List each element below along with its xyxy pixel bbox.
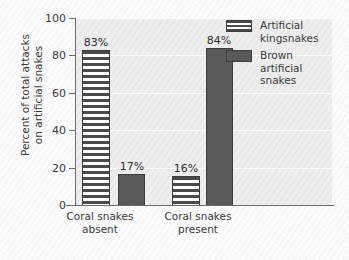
bar-kingsnakes-absent[interactable]	[82, 50, 110, 206]
legend-label-kingsnakes: Artificial kingsnakes	[260, 19, 319, 44]
bar-kingsnakes-present[interactable]	[172, 176, 200, 206]
bar-value-kingsnakes-absent: 83%	[68, 37, 124, 48]
legend-item-brown[interactable]: Brown artificial snakes	[226, 49, 302, 87]
legend-swatch-solid-icon	[226, 50, 252, 62]
y-tick-0	[69, 205, 75, 206]
chart-screenshot: 83% 17% 16% 84% 100 80 60 40 20 0 Percen…	[0, 0, 349, 260]
y-tick-100	[69, 18, 75, 19]
legend-item-kingsnakes[interactable]: Artificial kingsnakes	[226, 19, 319, 44]
y-tick-80	[69, 55, 75, 56]
legend-swatch-striped-icon	[226, 20, 252, 32]
bar-value-kingsnakes-present: 16%	[158, 163, 214, 174]
gridline-60	[76, 93, 332, 94]
y-tick-60	[69, 93, 75, 94]
y-axis-title: Percent of total attacks on artificial s…	[19, 25, 45, 165]
y-tick-20	[69, 168, 75, 169]
legend-label-brown: Brown artificial snakes	[260, 49, 302, 87]
bar-brown-absent[interactable]	[118, 174, 145, 206]
y-tick-40	[69, 130, 75, 131]
y-tick-label-100: 100	[22, 13, 66, 24]
x-category-label-present: Coral snakes present	[148, 210, 248, 236]
gridline-40	[76, 130, 332, 131]
bar-value-brown-absent: 17%	[104, 161, 160, 172]
y-axis-line	[75, 18, 76, 206]
x-category-label-absent: Coral snakes absent	[50, 210, 150, 236]
x-axis-line	[66, 205, 334, 206]
